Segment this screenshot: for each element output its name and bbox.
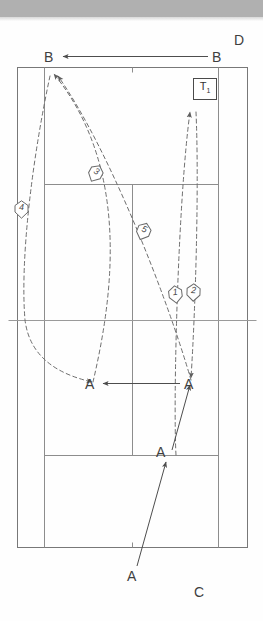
player-movement — [137, 385, 190, 566]
shot-marker-2-number: 2 — [186, 285, 201, 296]
player-label-a-mid-right: A — [184, 378, 194, 391]
shot-marker-1: 1 — [167, 284, 184, 305]
shot-marker-1-number: 1 — [167, 286, 183, 298]
annotation-arrows — [63, 57, 208, 384]
player-label-b-right: B — [212, 51, 222, 64]
server-position-box-t1: T1 — [193, 78, 217, 100]
player-label-b-left: B — [44, 51, 54, 64]
player-label-a-service: A — [156, 446, 166, 459]
player-label-a-baseline: A — [127, 570, 137, 583]
court-lines — [9, 68, 257, 548]
ball-trajectories — [24, 74, 197, 455]
corner-label-d: D — [234, 34, 244, 47]
shot-marker-2: 2 — [186, 283, 202, 303]
player-label-a-mid-left: A — [85, 378, 95, 391]
t1-subscript: 1 — [206, 88, 210, 95]
corner-label-c: C — [194, 586, 204, 599]
t1-label: T1 — [200, 81, 211, 96]
tennis-court-graphic — [0, 0, 263, 621]
shot-marker-4-number: 4 — [14, 202, 29, 212]
diagram-page: D C B B A A A A T1 1 2 3 4 5 — [0, 0, 263, 621]
shot-marker-4: 4 — [14, 200, 29, 219]
